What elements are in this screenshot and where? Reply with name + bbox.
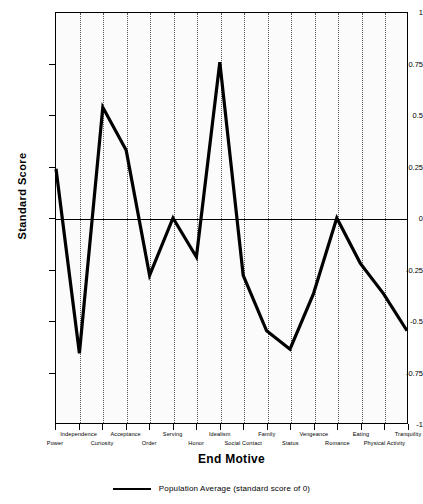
x-axis-tick-label: Vengeance xyxy=(299,431,328,437)
y-axis-title: Standard Score xyxy=(16,126,28,266)
x-axis-tick-label: Idealism xyxy=(209,431,231,437)
y-axis-tick-mark xyxy=(49,373,55,374)
x-axis-tick-label: Independence xyxy=(60,431,97,437)
x-axis-tick-mark xyxy=(361,424,362,430)
x-axis-tick-mark xyxy=(149,424,150,430)
y-axis-tick-label: 0.25 xyxy=(377,162,423,171)
legend-label: Population Average (standard score of 0) xyxy=(159,484,310,493)
y-axis-tick-label: -0.25 xyxy=(377,265,423,274)
x-axis-tick-label: Serving xyxy=(163,431,183,437)
legend: Population Average (standard score of 0) xyxy=(0,484,423,493)
x-axis-tick-mark xyxy=(267,424,268,430)
x-axis-tick-mark xyxy=(220,424,221,430)
x-axis-tick-label: Acceptance xyxy=(110,431,140,437)
y-axis-tick-label: 0.75 xyxy=(377,59,423,68)
x-axis-tick-label: Power xyxy=(47,440,63,446)
plot-inner xyxy=(56,13,407,423)
x-axis-tick-mark xyxy=(243,424,244,430)
y-axis-tick-label: 1 xyxy=(377,8,423,17)
x-axis-tick-mark xyxy=(102,424,103,430)
chart-figure: Standard Score 10.750.50.250-0.25-0.5-0.… xyxy=(0,0,423,504)
y-axis-tick-mark xyxy=(49,64,55,65)
x-axis-tick-label: Honor xyxy=(188,440,204,446)
x-axis-tick-label: Physical Activity xyxy=(364,440,406,446)
x-axis-tick-label: Tranquility xyxy=(395,431,422,437)
x-axis-tick-mark xyxy=(314,424,315,430)
x-axis-tick-mark xyxy=(79,424,80,430)
y-axis-tick-label: 0.5 xyxy=(377,111,423,120)
x-axis-tick-label: Romance xyxy=(325,440,350,446)
y-axis-tick-label: -0.75 xyxy=(377,368,423,377)
x-axis-title: End Motive xyxy=(55,452,408,466)
y-axis-tick-mark xyxy=(49,321,55,322)
y-axis-tick-mark xyxy=(49,270,55,271)
y-axis-tick-mark xyxy=(49,218,55,219)
y-axis-tick-mark xyxy=(49,115,55,116)
x-axis-tick-mark xyxy=(290,424,291,430)
y-axis-tick-mark xyxy=(49,167,55,168)
x-axis-tick-label: Eating xyxy=(353,431,369,437)
x-axis-tick-mark xyxy=(337,424,338,430)
plot-area xyxy=(55,12,408,424)
legend-line-swatch xyxy=(113,488,151,490)
x-axis-tick-label: Family xyxy=(258,431,275,437)
x-axis-tick-mark xyxy=(126,424,127,430)
x-axis-tick-mark xyxy=(384,424,385,430)
y-axis-tick-label: 0 xyxy=(377,214,423,223)
x-axis-tick-label: Curiosity xyxy=(91,440,114,446)
y-axis-tick-label: -0.5 xyxy=(377,317,423,326)
x-axis-tick-mark xyxy=(408,424,409,430)
x-axis-tick-mark xyxy=(196,424,197,430)
x-axis-tick-label: Social Contact xyxy=(225,440,262,446)
x-axis-tick-label: Order xyxy=(142,440,157,446)
x-axis-tick-mark xyxy=(173,424,174,430)
x-axis-tick-label: Status xyxy=(282,440,298,446)
x-axis-tick-mark xyxy=(55,424,56,430)
series-line xyxy=(56,13,407,423)
